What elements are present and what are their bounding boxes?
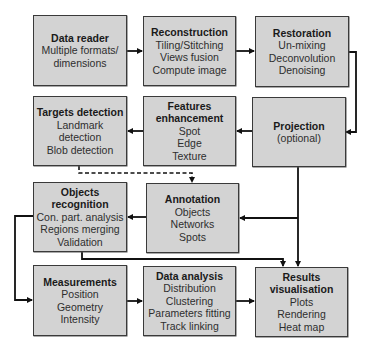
- box-line: Blob detection: [47, 144, 114, 157]
- box-line: Spot: [179, 125, 201, 138]
- box-line: Plots: [290, 296, 313, 309]
- arrow-objects-recognition-to-results: [82, 252, 283, 266]
- box-line: dimensions: [53, 57, 106, 70]
- arrow-targets-detection-to-annotation-dashed: [79, 166, 192, 182]
- box-title: Targets detection: [37, 106, 124, 119]
- box-line: Con. part. analysis: [37, 211, 124, 224]
- box-line: Heat map: [279, 321, 325, 334]
- box-line: Parameters fitting: [148, 307, 230, 320]
- box-title: Projection: [273, 120, 324, 133]
- box-line: Spots: [179, 231, 206, 244]
- box-results-visualisation: Results visualisation Plots Rendering He…: [255, 267, 348, 337]
- box-title: Results: [283, 271, 321, 284]
- box-features-enhancement: Features enhancement Spot Edge Texture: [143, 96, 236, 166]
- box-title: Data reader: [51, 32, 109, 45]
- box-objects-recognition: Objects recognition Con. part. analysis …: [33, 182, 127, 252]
- box-data-analysis: Data analysis Distribution Clustering Pa…: [143, 266, 236, 336]
- box-title: Features: [168, 100, 212, 113]
- box-line: Intensity: [60, 313, 99, 326]
- box-title: Reconstruction: [151, 26, 228, 39]
- box-line: detection: [59, 131, 102, 144]
- box-line: Deconvolution: [269, 52, 336, 65]
- box-title: Data analysis: [156, 270, 223, 283]
- arrow-objects-recognition-to-measurements: [15, 216, 33, 300]
- box-line: Tiling/Stitching: [156, 39, 224, 52]
- box-line: Multiple formats/: [41, 44, 118, 57]
- box-restoration: Restoration Un-mixing Deconvolution Deno…: [255, 16, 349, 87]
- box-data-reader: Data reader Multiple formats/ dimensions: [33, 15, 127, 86]
- box-line: Landmark: [57, 119, 104, 132]
- box-line: Objects: [175, 206, 211, 219]
- box-line: Track linking: [160, 320, 219, 333]
- box-line: Validation: [57, 236, 102, 249]
- box-line: Texture: [172, 150, 206, 163]
- box-line: Regions merging: [40, 223, 119, 236]
- box-title: Measurements: [43, 276, 117, 289]
- box-line: Un-mixing: [278, 39, 325, 52]
- box-line: Rendering: [277, 308, 325, 321]
- box-line: Denoising: [279, 64, 326, 77]
- box-line: Clustering: [166, 295, 213, 308]
- box-line: Geometry: [57, 301, 103, 314]
- box-measurements: Measurements Position Geometry Intensity: [33, 265, 127, 336]
- box-title: Restoration: [273, 27, 331, 40]
- box-title: Objects: [61, 186, 100, 199]
- box-projection: Projection (optional): [252, 97, 346, 167]
- box-annotation: Annotation Objects Networks Spots: [146, 183, 239, 253]
- box-title: recognition: [51, 198, 108, 211]
- box-title: enhancement: [156, 112, 224, 125]
- box-targets-detection: Targets detection Landmark detection Blo…: [33, 96, 127, 166]
- box-line: Compute image: [152, 64, 226, 77]
- box-line: (optional): [277, 132, 321, 145]
- box-line: Views fusion: [160, 51, 219, 64]
- box-title: visualisation: [270, 283, 334, 296]
- box-line: Networks: [171, 218, 215, 231]
- box-line: Edge: [177, 137, 202, 150]
- box-line: Distribution: [163, 282, 216, 295]
- box-line: Position: [61, 288, 98, 301]
- box-reconstruction: Reconstruction Tiling/Stitching Views fu…: [143, 16, 236, 86]
- box-title: Annotation: [165, 193, 220, 206]
